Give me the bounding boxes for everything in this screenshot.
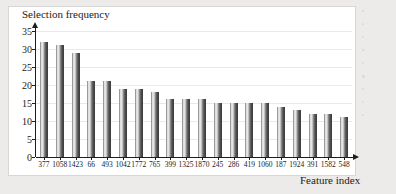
x-tick-label: 286 (228, 160, 239, 169)
x-tick-label: 187 (275, 160, 286, 169)
y-tick-label: 20 (22, 80, 32, 91)
figure-container: Selection frequency Feature index 051015… (0, 0, 396, 194)
gridline (36, 121, 352, 122)
bar (103, 81, 111, 157)
bar (135, 89, 143, 157)
bar (119, 89, 127, 157)
adjacent-text-line: e (362, 108, 396, 121)
bar (230, 103, 238, 157)
y-tick-mark (32, 31, 35, 32)
x-tick-label: 245 (212, 160, 223, 169)
y-tick-mark (32, 49, 35, 50)
x-tick-label: 1423 (68, 160, 83, 169)
x-tick-label: 1325 (179, 160, 194, 169)
x-tick-label: 391 (307, 160, 318, 169)
bar (277, 107, 285, 157)
x-tick-label: 548 (338, 160, 349, 169)
bar (198, 99, 206, 157)
bar (293, 110, 301, 157)
gridline (36, 49, 352, 50)
x-axis-title: Feature index (300, 174, 360, 186)
y-tick-label: 10 (22, 116, 32, 127)
bar (340, 117, 348, 157)
x-tick-label: 1924 (289, 160, 304, 169)
gridline (36, 85, 352, 86)
adjacent-text-line: s (362, 4, 396, 17)
adjacent-text-line: e (362, 17, 396, 30)
bar (261, 103, 269, 157)
adjacent-text-line: t (362, 30, 396, 43)
bar (151, 92, 159, 157)
adjacent-text-line: i (362, 95, 396, 108)
bar (182, 99, 190, 157)
y-axis-line (35, 26, 36, 157)
y-axis-title: Selection frequency (22, 8, 110, 20)
x-tick-label: 399 (165, 160, 176, 169)
x-tick-label: 765 (149, 160, 160, 169)
y-axis-arrow-icon (32, 22, 38, 28)
bar (72, 53, 80, 157)
y-tick-mark (32, 121, 35, 122)
bar (87, 81, 95, 157)
x-axis-arrow-icon (353, 154, 359, 160)
x-tick-label: 1772 (131, 160, 146, 169)
x-axis-line (36, 157, 356, 158)
adjacent-text-line: c (362, 82, 396, 95)
bar (245, 103, 253, 157)
y-tick-mark (32, 85, 35, 86)
y-tick-mark (32, 139, 35, 140)
bar (324, 114, 332, 157)
adjacent-text-column: setargcie (362, 4, 396, 164)
x-tick-label: 377 (38, 160, 49, 169)
gridline (36, 31, 352, 32)
adjacent-text-line: r (362, 56, 396, 69)
y-tick-label: 30 (22, 44, 32, 55)
x-tick-label: 1870 (194, 160, 209, 169)
y-tick-label: 25 (22, 62, 32, 73)
x-tick-label: 419 (244, 160, 255, 169)
gridline (36, 103, 352, 104)
bar (166, 99, 174, 157)
x-tick-label: 493 (101, 160, 112, 169)
gridline (36, 139, 352, 140)
bar (214, 103, 222, 157)
y-tick-label: 15 (22, 98, 32, 109)
x-tick-label: 1060 (258, 160, 273, 169)
adjacent-text-line: a (362, 43, 396, 56)
y-tick-label: 35 (22, 26, 32, 37)
bar (56, 45, 64, 157)
bar (309, 114, 317, 157)
x-tick-label: 1058 (52, 160, 67, 169)
adjacent-text-line: g (362, 69, 396, 82)
x-tick-label: 1042 (115, 160, 130, 169)
x-tick-label: 1582 (321, 160, 336, 169)
y-tick-mark (32, 103, 35, 104)
y-axis-ticks: 05101520253035 (10, 0, 32, 194)
gridline (36, 67, 352, 68)
y-tick-mark (32, 67, 35, 68)
bar (40, 42, 48, 157)
x-tick-label: 66 (88, 160, 96, 169)
y-tick-mark (32, 157, 35, 158)
